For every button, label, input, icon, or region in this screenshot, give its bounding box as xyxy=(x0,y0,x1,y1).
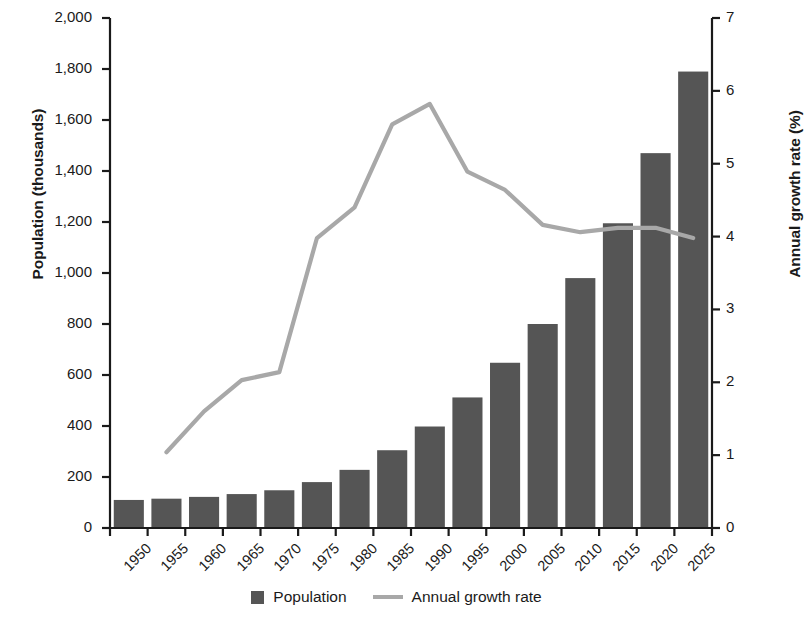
y-tick-label-right: 1 xyxy=(726,445,766,462)
bar-1960[interactable] xyxy=(189,497,219,528)
y-tick-label-left: 400 xyxy=(22,416,92,433)
bar-1965[interactable] xyxy=(227,494,257,528)
bar-2010[interactable] xyxy=(565,278,595,528)
y-tick-label-right: 4 xyxy=(726,227,766,244)
bar-2005[interactable] xyxy=(528,324,558,528)
bar-1950[interactable] xyxy=(114,500,144,528)
y-tick-label-left: 2,000 xyxy=(22,8,92,25)
y-tick-label-left: 1,400 xyxy=(22,161,92,178)
y-tick-label-right: 7 xyxy=(726,8,766,25)
legend-label: Annual growth rate xyxy=(412,588,542,606)
bar-1995[interactable] xyxy=(452,397,482,528)
bar-1990[interactable] xyxy=(415,427,445,528)
y-tick-label-left: 200 xyxy=(22,467,92,484)
bar-2000[interactable] xyxy=(490,363,520,528)
bar-1970[interactable] xyxy=(264,490,294,528)
y-tick-label-right: 2 xyxy=(726,372,766,389)
bar-1955[interactable] xyxy=(151,499,181,528)
y-tick-label-left: 800 xyxy=(22,314,92,331)
y-tick-label-left: 0 xyxy=(22,518,92,535)
y-tick-label-left: 600 xyxy=(22,365,92,382)
y-tick-label-left: 1,600 xyxy=(22,110,92,127)
y-tick-label-right: 0 xyxy=(726,518,766,535)
y-tick-label-left: 1,000 xyxy=(22,263,92,280)
legend-square-icon xyxy=(251,591,264,604)
chart-legend: PopulationAnnual growth rate xyxy=(0,588,793,606)
bar-2020[interactable] xyxy=(641,153,671,528)
legend-item[interactable]: Annual growth rate xyxy=(373,588,542,606)
bar-2015[interactable] xyxy=(603,223,633,528)
legend-label: Population xyxy=(273,588,346,606)
bar-1975[interactable] xyxy=(302,482,332,528)
y-tick-label-right: 6 xyxy=(726,81,766,98)
y-tick-label-right: 5 xyxy=(726,154,766,171)
y-tick-label-right: 3 xyxy=(726,299,766,316)
y-tick-label-left: 1,200 xyxy=(22,212,92,229)
bar-1980[interactable] xyxy=(340,470,370,528)
legend-line-icon xyxy=(373,595,403,599)
legend-item[interactable]: Population xyxy=(251,588,346,606)
y-tick-label-left: 1,800 xyxy=(22,59,92,76)
bar-1985[interactable] xyxy=(377,450,407,528)
bar-2025[interactable] xyxy=(678,72,708,528)
